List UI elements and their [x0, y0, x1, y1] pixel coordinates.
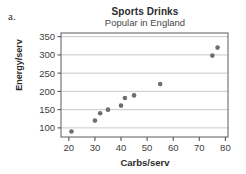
y-tick-label: 350	[39, 31, 55, 42]
x-tick-label: 60	[168, 142, 179, 153]
data-point	[93, 118, 98, 123]
data-points-group	[69, 45, 220, 134]
scatter-plot: 100150200250300350 20304050607080	[0, 0, 246, 174]
x-tick-label: 20	[64, 142, 75, 153]
gridlines-group	[61, 37, 228, 128]
y-axis-ticks-group: 100150200250300350	[39, 31, 61, 133]
x-axis-ticks-group: 20304050607080	[64, 137, 231, 153]
data-point	[98, 111, 103, 116]
x-tick-label: 70	[194, 142, 205, 153]
data-point	[158, 82, 163, 87]
x-tick-label: 40	[116, 142, 127, 153]
data-point	[69, 129, 74, 134]
data-point	[215, 45, 220, 50]
x-tick-label: 50	[142, 142, 153, 153]
x-tick-label: 80	[220, 142, 231, 153]
x-tick-label: 30	[90, 142, 101, 153]
data-point	[132, 93, 137, 98]
data-point	[119, 103, 124, 108]
data-point	[123, 96, 128, 101]
y-tick-label: 150	[39, 104, 55, 115]
plot-frame	[61, 33, 228, 137]
y-tick-label: 100	[39, 122, 55, 133]
figure-container: a. Sports Drinks Popular in England Ener…	[0, 0, 246, 174]
y-tick-label: 200	[39, 86, 55, 97]
plot-border	[61, 33, 228, 137]
data-point	[210, 53, 215, 58]
data-point	[106, 107, 111, 112]
y-tick-label: 300	[39, 49, 55, 60]
y-tick-label: 250	[39, 68, 55, 79]
